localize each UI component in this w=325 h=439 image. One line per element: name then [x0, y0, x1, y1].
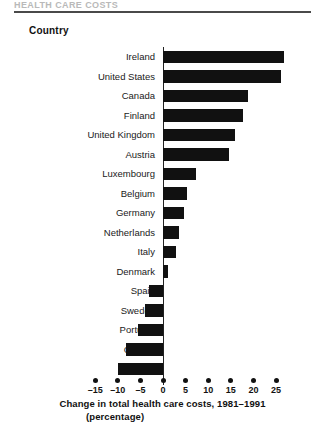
bar [163, 207, 184, 220]
category-label: Austria [0, 145, 155, 165]
chart-row: Spain [0, 281, 325, 301]
bar [163, 187, 187, 200]
axis-tick-dot [274, 378, 279, 383]
x-axis-title-line1: Change in total health care costs, 1981–… [59, 398, 265, 409]
category-label: Spain [0, 281, 155, 301]
axis-tick-dot [228, 378, 233, 383]
chart-row: Italy [0, 242, 325, 262]
chart-row: Portugal [0, 320, 325, 340]
chart-row: Germany [0, 203, 325, 223]
x-axis-title: Change in total health care costs, 1981–… [0, 398, 325, 423]
bar [163, 90, 248, 103]
bar [138, 324, 163, 337]
chart-row: Austria [0, 145, 325, 165]
bar [163, 51, 284, 64]
category-label: Portugal [0, 320, 155, 340]
category-label: Sweden [0, 301, 155, 321]
category-label: Denmark [0, 262, 155, 282]
x-axis-title-line2: (percentage) [0, 411, 325, 424]
bar [163, 148, 229, 161]
category-label: United States [0, 67, 155, 87]
axis-tick-dot [115, 378, 120, 383]
bar [163, 246, 176, 259]
plot-area: IrelandUnited StatesCanadaFinlandUnited … [0, 47, 325, 377]
category-label: Finland [0, 106, 155, 126]
chart-row: Netherlands [0, 223, 325, 243]
bar [163, 168, 196, 181]
bar [163, 129, 235, 142]
chart-row: Greece [0, 340, 325, 360]
bar [163, 226, 179, 239]
chart-row: Luxembourg [0, 164, 325, 184]
category-label: Germany [0, 203, 155, 223]
chart-row: Canada [0, 86, 325, 106]
running-head: HEALTH CARE COSTS [14, 0, 118, 9]
bar [163, 109, 243, 122]
category-label: Ireland [0, 47, 155, 67]
category-label: United Kingdom [0, 125, 155, 145]
header-rule [14, 11, 311, 13]
x-axis: –15–10–50510152025 [0, 377, 325, 397]
category-label: Italy [0, 242, 155, 262]
bar [118, 363, 163, 376]
chart-page: HEALTH CARE COSTS Country IrelandUnited … [0, 0, 325, 439]
bar [149, 285, 163, 298]
bar [126, 343, 163, 356]
chart-row: Denmark [0, 262, 325, 282]
axis-tick-dot [183, 378, 188, 383]
axis-tick-dot [161, 378, 166, 383]
chart-row: Sweden [0, 301, 325, 321]
chart-row: United Kingdom [0, 125, 325, 145]
column-header-country: Country [29, 25, 69, 36]
axis-tick-dot [93, 378, 98, 383]
chart-row: France [0, 359, 325, 379]
category-label: Luxembourg [0, 164, 155, 184]
chart-row: United States [0, 67, 325, 87]
chart-row: Belgium [0, 184, 325, 204]
axis-tick-dot [206, 378, 211, 383]
axis-tick-dot [251, 378, 256, 383]
axis-tick-dot [138, 378, 143, 383]
category-label: Netherlands [0, 223, 155, 243]
bar [163, 70, 281, 83]
chart-row: Ireland [0, 47, 325, 67]
category-label: Belgium [0, 184, 155, 204]
axis-tick-label: 25 [256, 385, 296, 395]
bar [145, 304, 163, 317]
category-label: Canada [0, 86, 155, 106]
bar [163, 265, 168, 278]
chart-row: Finland [0, 106, 325, 126]
